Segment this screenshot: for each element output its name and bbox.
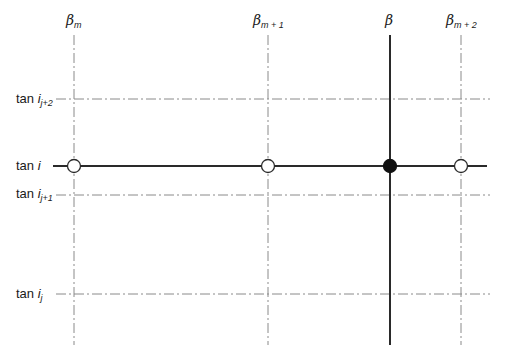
label-tan-ij: tan ij bbox=[16, 287, 43, 300]
label-beta: β bbox=[385, 13, 393, 27]
filled-node bbox=[384, 160, 397, 173]
label-beta-m1: βm + 1 bbox=[253, 13, 284, 27]
open-node bbox=[262, 160, 275, 173]
open-node bbox=[68, 160, 81, 173]
label-beta-m: βm bbox=[66, 13, 82, 27]
diagram-canvas bbox=[0, 0, 505, 364]
label-tan-ij1: tan ij+1 bbox=[16, 187, 53, 200]
label-beta-m2: βm + 2 bbox=[446, 13, 477, 27]
label-tan-ij2: tan ij+2 bbox=[16, 92, 53, 105]
label-tan-i: tan i bbox=[16, 159, 41, 172]
open-node bbox=[455, 160, 468, 173]
